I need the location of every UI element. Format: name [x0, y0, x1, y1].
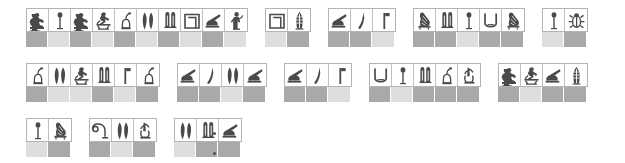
glyph-cell[interactable] — [49, 119, 71, 141]
color-swatch-dark[interactable] — [136, 87, 158, 102]
color-swatch-dark[interactable] — [369, 87, 391, 102]
color-swatch-dark[interactable] — [457, 87, 479, 102]
color-swatch-dark[interactable] — [243, 87, 265, 102]
glyph-cell[interactable] — [49, 64, 71, 86]
glyph-cell[interactable] — [565, 9, 587, 31]
color-swatch-dark[interactable] — [564, 87, 586, 102]
color-swatch-dark[interactable] — [70, 32, 92, 47]
glyph-cell[interactable] — [266, 9, 288, 31]
group-2-4[interactable] — [369, 63, 481, 102]
glyph-cell[interactable] — [181, 9, 203, 31]
glyph-cell[interactable] — [392, 64, 414, 86]
group-2-1[interactable] — [26, 63, 160, 102]
group-1-2[interactable] — [265, 8, 311, 47]
glyph-cell[interactable] — [244, 64, 266, 86]
glyph-cell[interactable] — [27, 9, 49, 31]
glyph-cell[interactable] — [219, 119, 241, 141]
color-swatch-light[interactable] — [520, 87, 542, 102]
color-swatch-dark[interactable] — [435, 87, 457, 102]
color-swatch-light[interactable] — [391, 87, 413, 102]
color-swatch-light[interactable] — [224, 32, 246, 47]
color-swatch-light[interactable] — [457, 32, 479, 47]
glyph-cell[interactable] — [71, 64, 93, 86]
color-swatch-dark[interactable] — [328, 32, 350, 47]
glyph-cell[interactable] — [370, 64, 392, 86]
color-swatch-light[interactable] — [265, 32, 287, 47]
glyph-cell[interactable] — [543, 9, 565, 31]
group-1-4[interactable] — [413, 8, 525, 47]
color-swatch-dark[interactable] — [501, 32, 523, 47]
glyph-cell[interactable] — [134, 119, 156, 141]
color-swatch-dark[interactable] — [158, 32, 180, 47]
color-swatch-dark[interactable] — [133, 142, 155, 157]
color-swatch-dark[interactable] — [284, 87, 306, 102]
glyph-cell[interactable] — [137, 9, 159, 31]
group-2-5[interactable] — [498, 63, 588, 102]
group-1-3[interactable] — [328, 8, 396, 47]
color-swatch-dark[interactable] — [287, 32, 309, 47]
glyph-cell[interactable] — [351, 9, 373, 31]
color-swatch-dark[interactable] — [114, 32, 136, 47]
group-3-2[interactable] — [89, 118, 157, 157]
glyph-cell[interactable] — [203, 9, 225, 31]
color-swatch-light[interactable] — [221, 87, 243, 102]
glyph-cell[interactable] — [288, 9, 310, 31]
color-swatch-dark[interactable] — [48, 142, 70, 157]
glyph-cell[interactable] — [436, 9, 458, 31]
glyph-cell[interactable] — [565, 64, 587, 86]
glyph-cell[interactable] — [414, 9, 436, 31]
glyph-cell[interactable] — [27, 64, 49, 86]
color-swatch-dark[interactable] — [498, 87, 520, 102]
group-1-5[interactable] — [542, 8, 588, 47]
color-swatch-dark[interactable] — [199, 87, 221, 102]
color-swatch-dark[interactable] — [306, 87, 328, 102]
group-2-3[interactable] — [284, 63, 352, 102]
glyph-cell[interactable] — [329, 9, 351, 31]
glyph-cell[interactable] — [285, 64, 307, 86]
color-swatch-dark[interactable] — [479, 32, 501, 47]
color-swatch-dark[interactable] — [218, 142, 240, 157]
glyph-cell[interactable] — [200, 64, 222, 86]
color-swatch-light[interactable] — [174, 142, 196, 157]
color-swatch-light[interactable] — [92, 32, 114, 47]
glyph-cell[interactable] — [502, 9, 524, 31]
color-swatch-dark[interactable] — [564, 32, 586, 47]
glyph-cell[interactable] — [27, 119, 49, 141]
glyph-cell[interactable] — [71, 9, 93, 31]
color-swatch-light[interactable] — [48, 87, 70, 102]
color-swatch-dark[interactable] — [202, 32, 224, 47]
glyph-cell[interactable] — [480, 9, 502, 31]
group-3-1[interactable] — [26, 118, 72, 157]
color-swatch-dark[interactable] — [89, 142, 111, 157]
glyph-cell[interactable] — [543, 64, 565, 86]
glyph-cell[interactable] — [222, 64, 244, 86]
glyph-cell[interactable] — [115, 9, 137, 31]
color-swatch-light[interactable] — [48, 32, 70, 47]
glyph-cell[interactable] — [414, 64, 436, 86]
color-swatch-dark[interactable] — [542, 87, 564, 102]
group-3-3[interactable] — [174, 118, 242, 157]
glyph-cell[interactable] — [93, 9, 115, 31]
glyph-cell[interactable] — [175, 119, 197, 141]
color-swatch-dark[interactable] — [350, 32, 372, 47]
glyph-cell[interactable] — [159, 9, 181, 31]
color-swatch-dark[interactable] — [177, 87, 199, 102]
color-swatch-dark[interactable] — [435, 32, 457, 47]
glyph-cell[interactable] — [373, 9, 395, 31]
glyph-cell[interactable] — [112, 119, 134, 141]
group-2-2[interactable] — [177, 63, 267, 102]
color-swatch-dark[interactable] — [413, 87, 435, 102]
glyph-cell[interactable] — [115, 64, 137, 86]
color-swatch-light[interactable] — [372, 32, 394, 47]
color-swatch-light[interactable] — [542, 32, 564, 47]
color-swatch-dark[interactable] — [413, 32, 435, 47]
glyph-cell[interactable] — [49, 9, 71, 31]
color-swatch-light[interactable] — [26, 142, 48, 157]
color-swatch-dark[interactable] — [92, 87, 114, 102]
glyph-cell[interactable] — [521, 64, 543, 86]
color-swatch-light[interactable] — [180, 32, 202, 47]
glyph-cell[interactable] — [307, 64, 329, 86]
glyph-cell[interactable] — [178, 64, 200, 86]
glyph-cell[interactable] — [137, 64, 159, 86]
glyph-cell[interactable] — [225, 9, 247, 31]
